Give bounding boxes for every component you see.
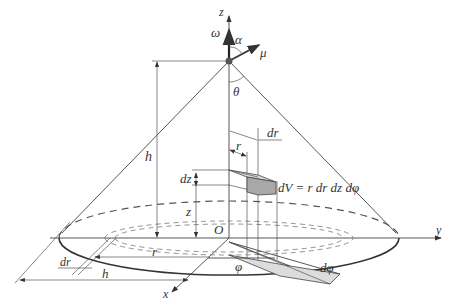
theta-arc xyxy=(229,76,244,82)
dr-base-label: dr xyxy=(60,255,71,269)
phi-label: φ xyxy=(235,259,242,274)
origin-label: O xyxy=(214,222,224,237)
cone-right-edge xyxy=(229,61,396,233)
theta-label: θ xyxy=(233,84,240,99)
h-base-label: h xyxy=(102,266,109,281)
alpha-arc xyxy=(229,47,242,54)
mu-label: μ⃗ xyxy=(259,45,277,60)
base-slant-ext xyxy=(15,222,70,283)
cone-diagram: z ω⃗ α μ⃗ θ h dr r dz dV = r dr dz dφ z … xyxy=(0,0,457,304)
inner-ellipse-4 xyxy=(105,238,353,255)
formula-dV: dV = r dr dz dφ xyxy=(278,180,359,195)
y-axis-label: y xyxy=(435,223,442,237)
dr-dimension-top xyxy=(230,131,257,140)
z-label: z xyxy=(185,204,191,219)
wedge-inner xyxy=(229,242,330,284)
r-top-label: r xyxy=(236,138,242,153)
alpha-label: α xyxy=(235,32,243,47)
inner-ellipse-2 xyxy=(115,238,343,252)
z-axis-label: z xyxy=(218,5,224,19)
cone-left-edge xyxy=(62,61,229,233)
dr-top-label: dr xyxy=(267,125,280,140)
h-vertical-label: h xyxy=(145,149,152,164)
x-axis-label: x xyxy=(162,287,169,301)
x-axis xyxy=(172,238,229,292)
dphi-label: dφ xyxy=(320,260,334,275)
volume-element-dV xyxy=(247,177,276,195)
dz-label: dz xyxy=(180,171,192,186)
omega-label: ω⃗ xyxy=(211,25,230,40)
